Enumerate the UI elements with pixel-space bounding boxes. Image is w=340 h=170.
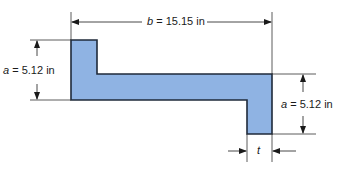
a-right-value: = 5.12 in [287,98,333,110]
t-dimension-label: t [257,144,260,156]
a-left-value: = 5.12 in [9,64,55,76]
t-variable: t [257,144,260,156]
a-right-dimension-label: a = 5.12 in [281,97,333,111]
b-dimension-label: b = 15.15 in [145,15,207,27]
a-left-dimension-label: a = 5.12 in [3,63,55,77]
z-section-shape [71,40,272,134]
b-value: = 15.15 in [153,15,205,27]
